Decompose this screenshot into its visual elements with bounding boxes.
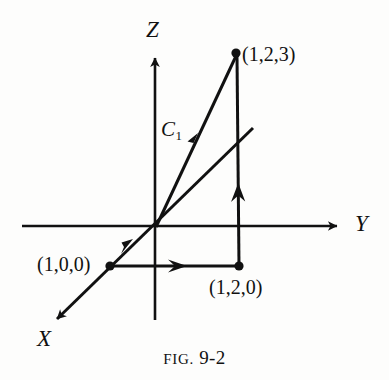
curve-c1-label-subscript: 1 — [176, 128, 183, 143]
point-1-2-3-dot — [231, 48, 240, 57]
figure-caption: FIG. 9-2 — [0, 347, 389, 369]
figure-caption-prefix: FIG. — [163, 351, 194, 367]
curve-c1-label-base: C — [161, 117, 175, 141]
point-1-0-0-label: (1,0,0) — [37, 254, 90, 274]
point-1-2-0-dot — [234, 261, 243, 270]
vertical-segment — [231, 56, 245, 266]
horizontal-segment — [110, 260, 240, 273]
figure-caption-number: 9-2 — [199, 347, 226, 368]
point-1-0-0-dot — [105, 261, 114, 270]
point-1-2-0-label: (1,2,0) — [209, 277, 262, 297]
coordinate-diagram — [0, 0, 389, 380]
figure-container: Z Y X C1 (1,2,3) (1,2,0) (1,0,0) FIG. 9-… — [0, 0, 389, 380]
point-1-2-3-label: (1,2,3) — [242, 44, 295, 64]
y-axis-label: Y — [355, 212, 368, 235]
vertical-segment-line — [237, 56, 239, 266]
z-axis-label: Z — [146, 18, 159, 41]
curve-c1-label: C1 — [161, 119, 182, 142]
